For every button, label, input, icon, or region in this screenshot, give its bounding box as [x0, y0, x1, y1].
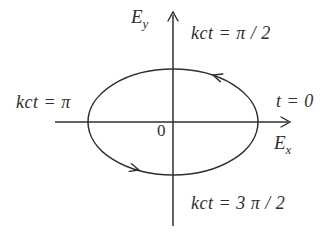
- origin-label: 0: [157, 122, 166, 141]
- polarization-ellipse-figure: Ey kct = π / 2 kct = π t = 0 Ex 0 kct = …: [0, 0, 330, 240]
- y-axis-label: Ey: [131, 7, 148, 31]
- phase-label-bottom: kct = 3 π / 2: [191, 194, 285, 214]
- y-axis-label-base: E: [131, 6, 143, 27]
- x-axis-label: Ex: [274, 133, 291, 157]
- x-axis-label-subscript: x: [286, 142, 292, 157]
- phase-label-left: kct = π: [16, 93, 71, 113]
- x-axis-label-base: E: [274, 132, 286, 153]
- y-axis-label-subscript: y: [143, 16, 149, 31]
- phase-label-top: kct = π / 2: [191, 24, 271, 44]
- time-start-label: t = 0: [276, 92, 314, 112]
